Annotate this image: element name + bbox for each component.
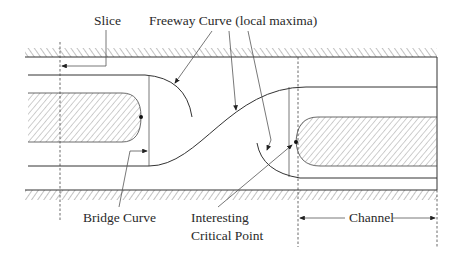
left-critical-point — [139, 115, 143, 119]
diagram-canvas: Slice Freeway Curve (local maxima) Bridg… — [0, 0, 461, 260]
slice-label: Slice — [94, 13, 121, 28]
freeway-leader-2 — [229, 31, 236, 110]
critical-label-2: Critical Point — [191, 228, 264, 243]
bridge-label: Bridge Curve — [83, 210, 156, 225]
critical-label-1: Interesting — [191, 210, 249, 225]
channel-label: Channel — [349, 210, 394, 225]
bottom-wall — [25, 190, 437, 200]
right-obstacle — [296, 117, 437, 166]
left-obstacle — [28, 93, 141, 142]
freeway-label: Freeway Curve (local maxima) — [149, 13, 317, 28]
interesting-critical-point — [294, 140, 298, 144]
